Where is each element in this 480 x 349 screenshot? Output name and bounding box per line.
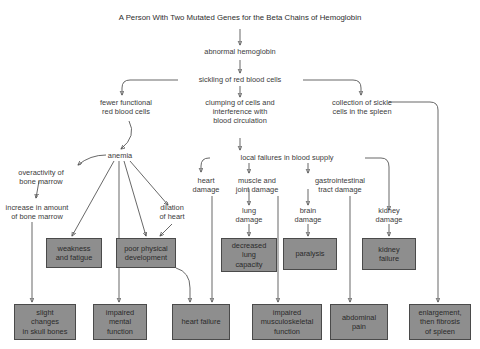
box-abdominal-pain: abdominal pain bbox=[330, 304, 388, 340]
box-slight-changes: slight changes in skull bones bbox=[14, 304, 76, 340]
node-collection-spleen: collection of sickle cells in the spleen bbox=[318, 98, 406, 116]
flowchart-diagram: A Person With Two Mutated Genes for the … bbox=[0, 0, 480, 349]
box-kidney-failure: kidney failure bbox=[362, 238, 416, 270]
node-brain-damage: brain damage bbox=[284, 206, 332, 224]
page-title: A Person With Two Mutated Genes for the … bbox=[0, 13, 480, 23]
node-clumping: clumping of cells and interference with … bbox=[192, 98, 288, 126]
node-lung-damage: lung damage bbox=[225, 206, 273, 224]
box-paralysis: paralysis bbox=[283, 238, 337, 270]
box-impaired-musculo: impaired musculoskeletal function bbox=[252, 304, 322, 340]
node-dilation-heart: dilation of heart bbox=[143, 203, 201, 221]
node-gi-tract-damage: gastrointestinal tract damage bbox=[300, 176, 380, 194]
node-increase-marrow: increase in amount of bone marrow bbox=[0, 203, 80, 221]
box-enlargement-spleen: enlargement, then fibrosis of spleen bbox=[409, 304, 471, 340]
node-fewer-functional: fewer functional red blood cells bbox=[80, 98, 172, 116]
box-decreased-lung: decreased lung capacity bbox=[221, 238, 277, 272]
node-sickling: sickling of red blood cells bbox=[175, 75, 305, 84]
node-anemia: anemia bbox=[94, 151, 146, 160]
node-local-failures: local failures in blood supply bbox=[207, 153, 367, 162]
node-muscle-joint-damage: muscle and joint damage bbox=[222, 176, 292, 194]
box-heart-failure: heart failure bbox=[172, 304, 230, 340]
node-kidney-damage: kidney damage bbox=[365, 206, 413, 224]
box-weakness: weakness and fatigue bbox=[46, 238, 102, 268]
box-impaired-mental: impaired mental function bbox=[93, 304, 147, 340]
node-abnormal-hemoglobin: abnormal hemoglobin bbox=[190, 47, 290, 56]
node-overactivity: overactivity of bone marrow bbox=[4, 168, 78, 186]
box-poor-physical: poor physical development bbox=[116, 238, 176, 268]
